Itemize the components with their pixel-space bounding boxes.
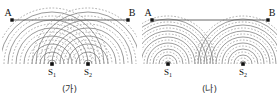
source-2-label: S2 (84, 67, 92, 78)
wavefront-group (0, 8, 139, 64)
wave-crest-arc (216, 37, 270, 64)
panel-ga-caption: (가) (0, 84, 139, 95)
wave-crest-arc (153, 49, 183, 64)
panel-ga: ABS1S2 (가) (0, 0, 139, 102)
wave-trough-arc (219, 40, 267, 64)
panel-na-caption: (나) (140, 84, 279, 95)
point-A-dot (150, 18, 153, 21)
wave-crest-arc (140, 31, 201, 64)
wave-crest-arc (141, 37, 195, 64)
source-2-dot (241, 62, 245, 66)
point-B-dot (266, 18, 269, 21)
panel-na: ABS1S2 (나) (140, 0, 279, 102)
label-B: B (129, 7, 136, 18)
wavefront-group (140, 16, 279, 64)
source-1-dot (50, 62, 54, 66)
label-A: A (144, 7, 152, 18)
point-A-dot (10, 18, 13, 21)
source-2-dot (86, 62, 90, 66)
panel-na-canvas: ABS1S2 (140, 0, 279, 88)
point-B-dot (126, 18, 129, 21)
panel-ga-canvas: ABS1S2 (0, 0, 139, 88)
wave-interference-figure: ABS1S2 (가) ABS1S2 (나) (0, 0, 279, 102)
label-A: A (4, 7, 12, 18)
wave-crest-arc (228, 49, 258, 64)
source-1-label: S1 (164, 67, 172, 78)
source-2-label: S2 (239, 67, 247, 78)
wave-trough-arc (144, 40, 192, 64)
wave-crest-arc (140, 25, 207, 64)
source-1-label: S1 (48, 67, 56, 78)
label-B: B (269, 7, 276, 18)
source-1-dot (166, 62, 170, 66)
